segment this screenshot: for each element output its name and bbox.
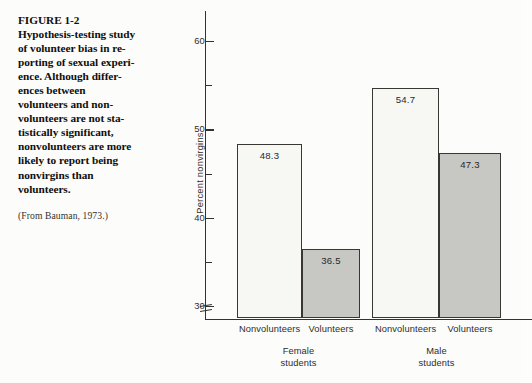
- y-axis-line: [205, 11, 206, 320]
- y-tick-minor: [206, 85, 212, 86]
- y-tick-major: [206, 218, 214, 219]
- figure-caption: FIGURE 1-2Hypothesis-testing studyof vol…: [18, 13, 178, 221]
- group-label: Malestudents: [387, 346, 487, 369]
- group-label-line: Male: [387, 346, 487, 358]
- group-label: Femalestudents: [249, 346, 349, 369]
- y-tick-major: [206, 306, 214, 307]
- caption-line: ence. Although differ-: [18, 69, 178, 83]
- caption-line: volunteers and non-: [18, 97, 178, 111]
- caption-line: nonvirgins than: [18, 168, 178, 182]
- caption-line: volunteers.: [18, 182, 178, 196]
- group-label-line: students: [387, 358, 487, 370]
- y-tick-label: 40: [181, 212, 205, 223]
- caption-line: volunteers are not sta-: [18, 111, 178, 125]
- bar-value-label: 48.3: [237, 150, 302, 161]
- bar-value-label: 54.7: [372, 94, 439, 105]
- bar-chart: Percent nonvirgins 30405060 48.336.554.7…: [178, 0, 521, 383]
- bar-white-2: [372, 88, 439, 319]
- caption-line: porting of sexual experi-: [18, 55, 178, 69]
- caption-line: tistically significant,: [18, 125, 178, 139]
- group-label-line: students: [249, 358, 349, 370]
- caption-line: of volunteer bias in re-: [18, 41, 178, 55]
- x-axis-line: [205, 319, 532, 320]
- caption-line: Hypothesis-testing study: [18, 27, 178, 41]
- category-label: Volunteers: [425, 324, 515, 334]
- bar-value-label: 47.3: [439, 159, 501, 170]
- bar-white-0: [237, 144, 302, 318]
- y-tick-major: [206, 129, 214, 130]
- y-tick-label: 30: [181, 300, 205, 311]
- caption-line: nonvolunteers are more: [18, 139, 178, 153]
- caption-text: FIGURE 1-2Hypothesis-testing studyof vol…: [18, 13, 178, 196]
- y-tick-major: [206, 41, 214, 42]
- y-tick-label: 60: [181, 35, 205, 46]
- y-tick-minor: [206, 262, 212, 263]
- bar-gray-3: [439, 153, 501, 318]
- y-tick-minor: [206, 174, 212, 175]
- caption-line: likely to report being: [18, 153, 178, 167]
- caption-figure-number: FIGURE 1-2: [18, 13, 178, 27]
- caption-line: ences between: [18, 83, 178, 97]
- y-tick-label: 50: [181, 123, 205, 134]
- group-label-line: Female: [249, 346, 349, 358]
- bar-value-label: 36.5: [302, 255, 360, 266]
- caption-source: (From Bauman, 1973.): [18, 210, 178, 221]
